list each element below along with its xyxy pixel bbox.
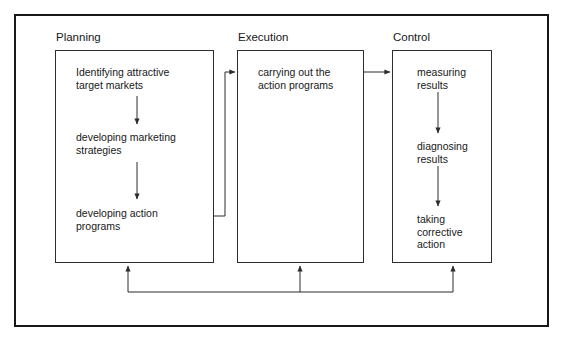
step-diagnosing-results: diagnosing results <box>417 140 497 165</box>
step-developing-action-programs: developing action programs <box>76 207 206 232</box>
diagram-figure: Planning Identifying attractive target m… <box>0 0 564 346</box>
column-label-execution: Execution <box>238 31 289 44</box>
step-carrying-out-the-action-programs: carrying out the action programs <box>258 66 368 91</box>
column-label-control: Control <box>393 31 430 44</box>
step-measuring-results: measuring results <box>417 66 497 91</box>
step-identifying-attractive-target-markets: Identifying attractive target markets <box>76 66 206 91</box>
step-taking-corrective-action: taking corrective action <box>417 213 497 251</box>
step-developing-marketing-strategies: developing marketing strategies <box>76 131 206 156</box>
column-label-planning: Planning <box>56 31 101 44</box>
